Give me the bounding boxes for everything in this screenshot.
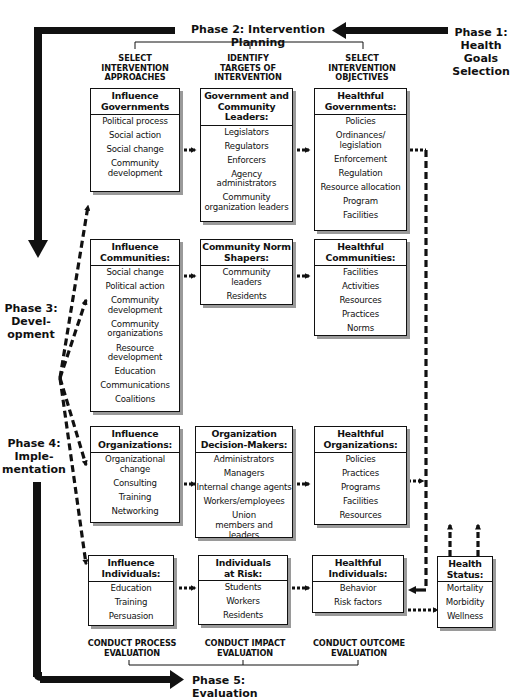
box-item: Program xyxy=(315,197,406,207)
fanout-dashed-arrows xyxy=(60,206,88,564)
box-title: Community Norm Shapers: xyxy=(201,240,292,266)
box-item: Behavior xyxy=(313,584,403,594)
box-item: Enforcers xyxy=(201,156,292,166)
box-title: Government and Community Leaders: xyxy=(201,89,292,126)
box-healthful-individuals: Healthful Individuals: Behavior Risk fac… xyxy=(312,555,404,613)
box-title: Organization Decision-Makers: xyxy=(196,427,292,453)
phase1-label: Phase 1: Health Goals Selection xyxy=(452,26,510,78)
phase3-line: Devel- xyxy=(2,315,60,328)
box-item: Managers xyxy=(196,469,292,479)
box-item: Norms xyxy=(315,324,406,334)
column-header-objectives: SELECT INTERVENTION OBJECTIVES xyxy=(314,54,410,83)
box-individuals-at-risk: Individuals at Risk: Students Workers Re… xyxy=(198,555,288,625)
header-line: OBJECTIVES xyxy=(314,73,410,83)
box-healthful-governments: Healthful Governments: Policies Ordinanc… xyxy=(314,88,407,231)
box-item: Programs xyxy=(315,483,406,493)
phase4-line: mentation xyxy=(2,463,66,476)
box-item: Networking xyxy=(91,507,179,517)
phase1-line: Health xyxy=(452,39,510,52)
eval-line: CONDUCT OUTCOME xyxy=(305,638,413,648)
phase3-line: Phase 3: xyxy=(2,302,60,315)
phase1-line: Selection xyxy=(452,65,510,78)
phase4-label: Phase 4: Imple- mentation xyxy=(2,437,66,476)
box-title: Individuals at Risk: xyxy=(215,556,272,581)
box-item: Agency administrators xyxy=(212,170,282,189)
box-item: Regulators xyxy=(201,142,292,152)
box-item: Workers/employees xyxy=(196,497,292,507)
box-item: Political action xyxy=(91,282,179,292)
box-healthful-communities: Healthful Communities: Facilities Activi… xyxy=(314,239,407,336)
box-item: Community development xyxy=(105,159,165,178)
box-item: Administrators xyxy=(196,455,292,465)
box-item: Risk factors xyxy=(313,598,403,608)
box-item: Union members and leaders xyxy=(212,511,276,540)
box-healthful-organizations: Healthful Organizations: Policies Practi… xyxy=(314,426,407,525)
eval-line: CONDUCT PROCESS xyxy=(82,638,182,648)
eval-header-outcome: CONDUCT OUTCOME EVALUATION xyxy=(305,638,413,658)
header-line: INTERVENTION xyxy=(200,73,296,83)
box-community-norm-shapers: Community Norm Shapers: Community leader… xyxy=(200,239,293,305)
phase4-line: Imple- xyxy=(2,450,66,463)
box-item: Resources xyxy=(315,296,406,306)
eval-line: EVALUATION xyxy=(195,648,295,658)
box-influence-governments: Influence Governments Political process … xyxy=(90,88,180,192)
box-item: Residents xyxy=(201,292,292,302)
box-title: Healthful Communities: xyxy=(315,240,406,266)
box-item: Resource allocation xyxy=(315,183,406,193)
box-item: Training xyxy=(91,493,179,503)
phase3-label: Phase 3: Devel- opment xyxy=(2,302,60,341)
phase1-line: Goals xyxy=(452,52,510,65)
eval-line: EVALUATION xyxy=(305,648,413,658)
box-item: Morbidity xyxy=(438,598,492,608)
box-organization-decision-makers: Organization Decision-Makers: Administra… xyxy=(195,426,293,538)
box-government-community-leaders: Government and Community Leaders: Legisl… xyxy=(200,88,293,222)
box-item: Regulation xyxy=(315,169,406,179)
box-title: Healthful Individuals: xyxy=(313,556,403,582)
box-item: Education xyxy=(91,367,179,377)
box-item: Activities xyxy=(315,282,406,292)
box-item: Organizational change xyxy=(100,455,170,474)
box-item: Communications xyxy=(91,381,179,391)
column-header-approaches: SELECT INTERVENTION APPROACHES xyxy=(88,54,182,83)
box-item: Social change xyxy=(91,268,179,278)
box-title: Healthful Organizations: xyxy=(315,427,406,453)
box-item: Social action xyxy=(91,131,179,141)
box-item: Social change xyxy=(91,145,179,155)
box-title: Health Status: xyxy=(444,557,486,582)
column-header-targets: IDENTIFY TARGETS OF INTERVENTION xyxy=(200,54,296,83)
box-item: Policies xyxy=(315,455,406,465)
box-title: Healthful Governments: xyxy=(315,89,406,115)
eval-line: EVALUATION xyxy=(82,648,182,658)
box-title: Influence Organizations: xyxy=(91,427,179,453)
box-item: Policies xyxy=(315,117,406,127)
box-item: Practices xyxy=(315,310,406,320)
box-influence-organizations: Influence Organizations: Organizational … xyxy=(90,426,180,523)
box-title: Influence Individuals: xyxy=(89,556,173,582)
eval-header-process: CONDUCT PROCESS EVALUATION xyxy=(82,638,182,658)
phase5-label: Phase 5: Evaluation xyxy=(192,674,312,697)
box-item: Mortality xyxy=(438,584,492,594)
box-item: Legislators xyxy=(201,128,292,138)
phase4-line: Phase 4: xyxy=(2,437,66,450)
box-influence-communities: Influence Communities: Social change Pol… xyxy=(90,239,180,412)
box-item: Consulting xyxy=(91,479,179,489)
box-influence-individuals: Influence Individuals: Education Trainin… xyxy=(88,555,174,626)
box-item: Coalitions xyxy=(91,395,179,405)
box-item: Students xyxy=(199,583,287,593)
feedback-arrowhead xyxy=(408,586,416,594)
box-item: Persuasion xyxy=(89,612,173,622)
box-item: Community organization leaders xyxy=(202,193,292,212)
phase1-line: Phase 1: xyxy=(452,26,510,39)
objectives-feedback-line xyxy=(408,150,426,590)
eval-line: CONDUCT IMPACT xyxy=(195,638,295,648)
phase2-label: Phase 2: Intervention Planning xyxy=(178,23,338,49)
phase3-line: opment xyxy=(2,328,60,341)
box-item: Facilities xyxy=(315,497,406,507)
box-item: Enforcement xyxy=(315,155,406,165)
box-item: Facilities xyxy=(315,268,406,278)
box-title: Influence Communities: xyxy=(91,240,179,266)
header-line: APPROACHES xyxy=(88,73,182,83)
box-item: Internal change agents xyxy=(196,483,292,493)
box-title: Influence Governments xyxy=(91,89,179,115)
box-item: Training xyxy=(89,598,173,608)
